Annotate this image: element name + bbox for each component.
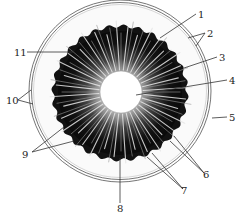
label-8: 8 [117,203,123,214]
label-9: 9 [22,149,28,160]
iris-diagram: 1 2 3 4 5 6 7 8 9 10 11 [0,0,239,219]
label-3: 3 [219,52,225,63]
label-5: 5 [229,112,235,123]
label-1: 1 [198,9,204,20]
label-10: 10 [6,95,19,106]
label-11: 11 [14,47,27,58]
label-7: 7 [181,185,187,196]
pupil [100,71,142,113]
label-4: 4 [229,75,235,86]
label-2: 2 [207,28,213,39]
label-6: 6 [203,169,209,180]
